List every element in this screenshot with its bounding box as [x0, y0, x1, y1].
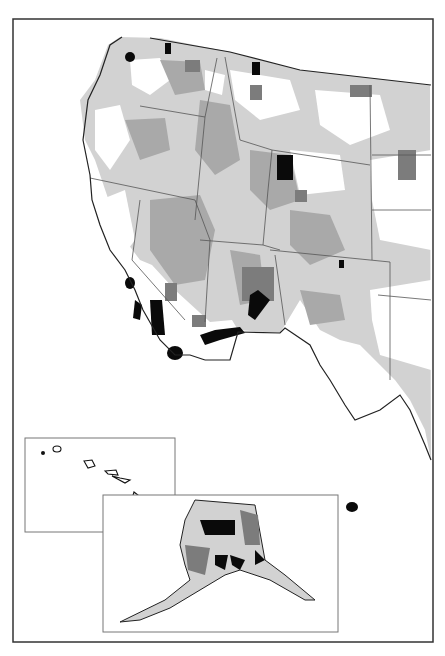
- alaska-inset: [103, 495, 338, 632]
- map-canvas: [0, 0, 445, 656]
